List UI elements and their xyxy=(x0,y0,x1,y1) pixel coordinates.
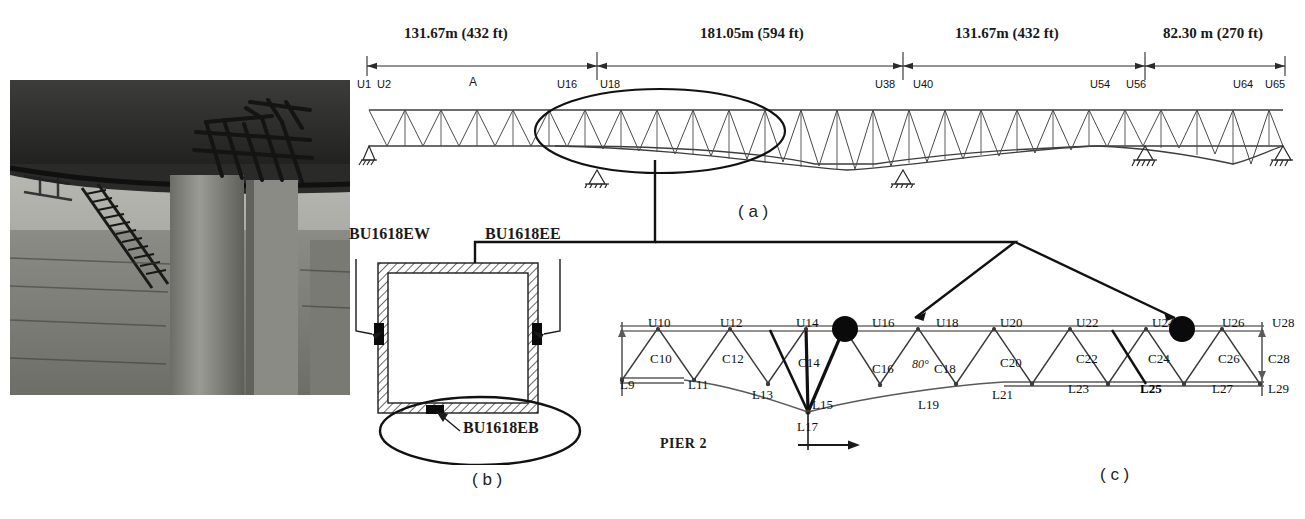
panel-label-b: ( b ) xyxy=(472,471,502,488)
detail-bottom-node-l15: L15 xyxy=(812,398,833,411)
detail-bottom-node-l23: L23 xyxy=(1068,382,1089,395)
span-label-2: 181.05m (594 ft) xyxy=(700,26,804,41)
gauge-label-east: BU1618EE xyxy=(485,226,561,242)
detail-bottom-node-l19: L19 xyxy=(918,398,939,411)
figure-root: 131.67m (432 ft) 181.05m (594 ft) 131.67… xyxy=(0,0,1305,519)
node-label-u16: U16 xyxy=(557,79,577,90)
detail-bottom-chord xyxy=(620,378,1264,412)
node-label-u18: U18 xyxy=(600,79,620,90)
node-label-u1: U1 xyxy=(357,79,371,90)
detail-top-node-u24: U24 xyxy=(1152,316,1174,329)
pier2-callout-arrow xyxy=(740,430,870,460)
detail-top-node-u20: U20 xyxy=(1000,316,1022,329)
detail-bottom-node-l29: L29 xyxy=(1268,382,1289,395)
gauge-label-bottom: BU1618EB xyxy=(463,420,539,436)
detail-top-node-u22: U22 xyxy=(1076,316,1098,329)
detail-member-c14: C14 xyxy=(798,356,820,369)
detail-member-c22: C22 xyxy=(1076,352,1098,365)
detail-member-c28: C28 xyxy=(1268,352,1290,365)
detail-top-node-u10: U10 xyxy=(648,316,670,329)
detail-top-node-u18: U18 xyxy=(936,316,958,329)
detail-bottom-node-l21: L21 xyxy=(992,388,1013,401)
node-label-u64: U64 xyxy=(1233,79,1253,90)
node-label-a: A xyxy=(469,76,477,88)
detail-member-c12: C12 xyxy=(722,352,744,365)
detail-top-node-u26: U26 xyxy=(1222,316,1244,329)
detail-top-node-u12: U12 xyxy=(720,316,742,329)
detail-member-c26: C26 xyxy=(1218,352,1240,365)
angle-label: 80° xyxy=(912,358,929,370)
instrumented-node-marker-1 xyxy=(832,316,858,342)
detail-member-c18: C18 xyxy=(934,362,956,375)
leader-west xyxy=(356,259,372,334)
detail-member-c16: C16 xyxy=(872,362,894,375)
leader-east xyxy=(544,259,560,334)
photograph-image xyxy=(10,80,350,395)
panel-label-c: ( c ) xyxy=(1100,466,1129,483)
node-label-u54: U54 xyxy=(1090,79,1110,90)
detail-top-node-u16: U16 xyxy=(872,316,894,329)
detail-member-c24: C24 xyxy=(1148,352,1170,365)
node-label-u65: U65 xyxy=(1265,79,1285,90)
detail-bottom-node-l11: L11 xyxy=(688,378,708,391)
gauge-label-west: BU1618EW xyxy=(349,226,430,242)
node-label-u38: U38 xyxy=(875,79,895,90)
detail-bottom-node-l25: L25 xyxy=(1140,382,1162,395)
span-label-3: 131.67m (432 ft) xyxy=(955,26,1059,41)
pier2-label: PIER 2 xyxy=(660,437,707,451)
detail-bottom-node-l13: L13 xyxy=(752,388,773,401)
detail-bottom-node-l9: L9 xyxy=(620,378,634,391)
detail-top-node-u28: U28 xyxy=(1272,316,1294,329)
bridge-photograph xyxy=(10,80,350,395)
detail-top-node-u14: U14 xyxy=(796,316,818,329)
node-label-u56: U56 xyxy=(1126,79,1146,90)
detail-bottom-node-l27: L27 xyxy=(1212,382,1233,395)
node-label-u2: U2 xyxy=(377,79,391,90)
span-label-1: 131.67m (432 ft) xyxy=(404,26,508,41)
detail-member-c10: C10 xyxy=(650,352,672,365)
node-label-u40: U40 xyxy=(913,79,933,90)
span-label-4: 82.30 m (270 ft) xyxy=(1163,26,1263,41)
detail-member-c20: C20 xyxy=(1000,356,1022,369)
box-section-interior xyxy=(388,273,528,403)
